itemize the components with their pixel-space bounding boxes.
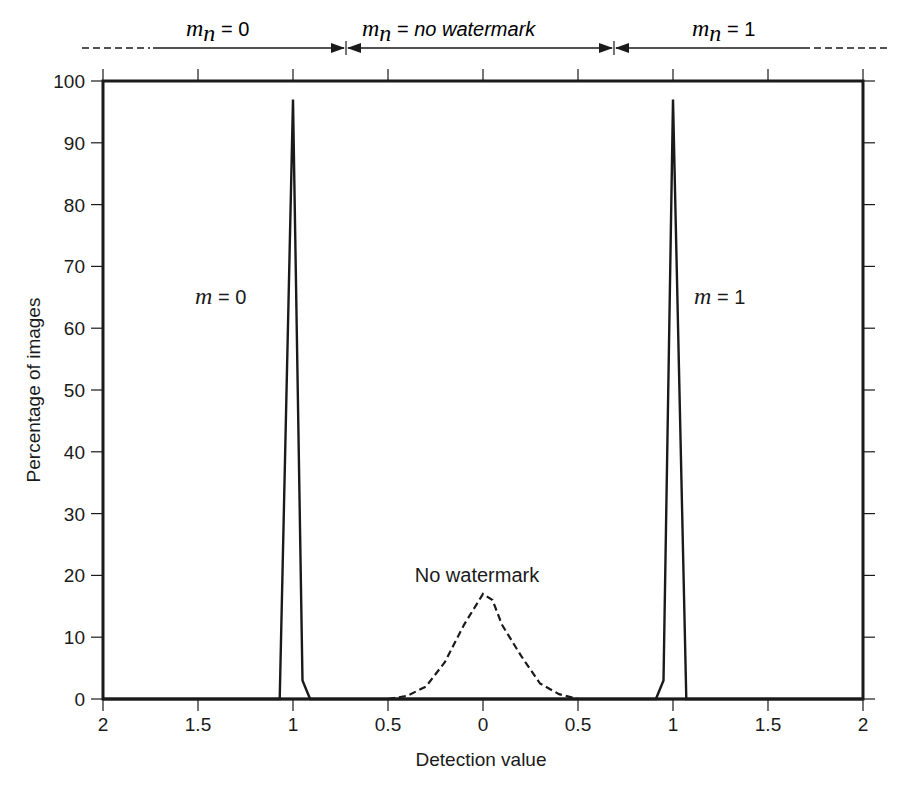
y-tick-label: 90 [64,133,85,154]
x-tick-label: 1.5 [755,714,781,735]
y-tick-label: 0 [74,689,85,710]
region-label-nowm: mn = no watermark [362,15,536,46]
x-axis-title: Detection value [416,749,547,770]
y-tick-label: 20 [64,565,85,586]
y-tick-label: 70 [64,256,85,277]
series-m-1 [103,100,863,700]
chart: mn = 0 mn = no watermark mn = 1 21.510.5… [0,0,908,790]
region-label-m0: mn = 0 [186,15,249,46]
decision-region-bar: mn = 0 mn = no watermark mn = 1 [82,15,888,55]
x-tick-label: 1 [288,714,299,735]
annotation-m0: m = 0 [195,283,246,309]
axis-tick-labels: 21.510.500.511.520102030405060708090100 [53,71,868,735]
series-group [103,100,863,700]
series-no-watermark [388,594,578,699]
annotation-no-watermark: No watermark [415,564,540,586]
x-tick-label: 2 [98,714,109,735]
y-tick-label: 80 [64,195,85,216]
y-tick-label: 10 [64,627,85,648]
y-axis-title: Percentage of images [23,298,44,483]
y-tick-label: 40 [64,442,85,463]
plot-frame [103,81,863,699]
y-tick-label: 60 [64,318,85,339]
x-tick-label: 1.5 [185,714,211,735]
x-tick-label: 0.5 [565,714,591,735]
series-m-0 [103,100,863,700]
y-tick-label: 100 [53,71,85,92]
annotation-m1: m = 1 [694,283,745,309]
x-tick-label: 2 [858,714,869,735]
axis-ticks [91,69,875,711]
region-label-m1: mn = 1 [692,15,755,46]
y-tick-label: 30 [64,504,85,525]
x-tick-label: 0.5 [375,714,401,735]
y-tick-label: 50 [64,380,85,401]
x-tick-label: 0 [478,714,489,735]
x-tick-label: 1 [668,714,679,735]
